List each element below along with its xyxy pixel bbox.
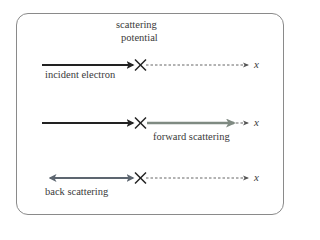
row-forward — [42, 118, 248, 129]
scatter-x-icon — [135, 118, 146, 129]
x-axis-label: x — [254, 172, 259, 183]
incident-electron-label: incident electron — [45, 70, 115, 81]
row-back — [50, 173, 248, 184]
scatter-x-icon — [135, 60, 146, 71]
x-axis-label: x — [254, 117, 259, 128]
forward-scattering-label: forward scattering — [153, 132, 230, 143]
x-axis-label: x — [254, 59, 259, 70]
back-scattering-label: back scattering — [45, 187, 108, 198]
scatter-x-icon — [135, 173, 146, 184]
